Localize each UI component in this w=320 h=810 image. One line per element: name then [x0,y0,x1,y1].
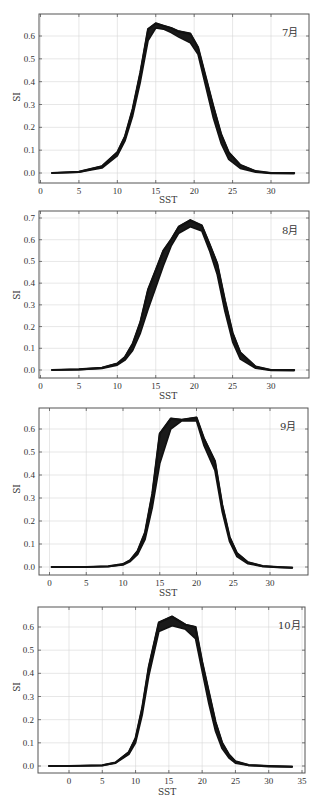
x-tick-label: 5 [77,381,82,391]
x-tick-label: 35 [298,776,308,786]
y-tick-label: 0.4 [24,470,36,480]
panel-3-xlabel: SST [159,588,177,598]
panel-2-ylabel: SI [12,290,22,300]
x-tick-label: 0 [38,381,43,391]
y-tick-label: 0.2 [24,516,35,526]
x-tick-label: 25 [231,776,241,786]
y-tick-label: 0.5 [24,256,36,266]
y-tick-label: 0.3 [24,300,36,310]
y-tick-label: 0.5 [24,54,36,64]
x-tick-label: 30 [266,578,276,588]
y-tick-label: 0.4 [23,668,35,678]
si-uncertainty-band [52,418,292,568]
y-tick-label: 0.4 [24,77,36,87]
y-tick-label: 0.7 [24,213,36,223]
y-tick-label: 0.3 [24,100,36,110]
y-tick-label: 0.1 [24,145,35,155]
panel-1-ylabel: SI [12,92,22,102]
x-tick-label: 20 [190,186,200,196]
x-tick-label: 30 [267,186,277,196]
y-tick-label: 0.1 [23,738,34,748]
chart-panel-1: 0510152025300.00.10.20.30.40.50.6 [24,14,309,196]
x-tick-label: 10 [131,776,141,786]
y-tick-label: 0.1 [24,539,35,549]
panel-4-xlabel: SST [158,787,176,797]
axes-frame [38,607,305,773]
x-tick-label: 20 [198,776,208,786]
chart-panel-4: 051015202530350.00.10.20.30.40.50.6 [23,607,307,786]
x-tick-label: 10 [113,381,123,391]
x-tick-label: 0 [47,578,52,588]
panel-2-month-label: 8月 [282,222,298,237]
x-tick-label: 25 [229,578,239,588]
y-tick-label: 0.6 [24,31,36,41]
x-tick-label: 10 [119,578,129,588]
axes-frame [39,14,309,183]
y-tick-label: 0.5 [23,645,35,655]
y-tick-label: 0.0 [24,365,36,375]
x-tick-label: 25 [228,186,238,196]
chart-panel-2: 0510152025300.00.10.20.30.40.50.60.7 [24,211,309,391]
y-tick-label: 0.6 [23,622,35,632]
panel-1-month-label: 7月 [282,24,298,39]
axes-frame [39,408,308,575]
y-tick-label: 0.0 [23,761,35,771]
si-curve [49,617,292,767]
x-tick-label: 25 [228,381,238,391]
panel-3-ylabel: SI [12,484,22,494]
y-tick-label: 0.4 [24,278,36,288]
panel-4-ylabel: SI [12,682,22,692]
y-tick-label: 0.2 [24,322,35,332]
panel-4-month-label: 10月 [278,617,301,632]
x-tick-label: 5 [84,578,89,588]
x-tick-label: 20 [190,381,200,391]
y-tick-label: 0.2 [23,715,34,725]
y-tick-label: 0.6 [24,424,36,434]
x-tick-label: 15 [164,776,174,786]
figure: 0510152025300.00.10.20.30.40.50.60510152… [0,0,320,810]
si-curve [52,23,294,173]
panel-2-xlabel: SST [159,391,177,401]
panel-1-xlabel: SST [159,195,177,205]
y-tick-label: 0.6 [24,235,36,245]
panel-3-month-label: 9月 [280,418,296,433]
x-tick-label: 30 [267,381,277,391]
x-tick-label: 30 [264,776,274,786]
y-tick-label: 0.1 [24,343,35,353]
chart-panel-3: 0510152025300.00.10.20.30.40.50.6 [24,408,308,588]
si-uncertainty-band [52,23,294,173]
x-tick-label: 10 [113,186,123,196]
x-tick-label: 15 [155,578,165,588]
si-uncertainty-band [49,617,292,767]
x-tick-label: 0 [38,186,43,196]
x-tick-label: 5 [100,776,105,786]
y-tick-label: 0.3 [23,692,35,702]
x-tick-label: 5 [77,186,82,196]
y-tick-label: 0.5 [24,447,36,457]
y-tick-label: 0.0 [24,562,36,572]
y-tick-label: 0.3 [24,493,36,503]
si-curve [52,418,292,568]
y-tick-label: 0.0 [24,168,36,178]
y-tick-label: 0.2 [24,122,35,132]
x-tick-label: 15 [151,381,161,391]
x-tick-label: 0 [67,776,72,786]
x-tick-label: 20 [192,578,202,588]
